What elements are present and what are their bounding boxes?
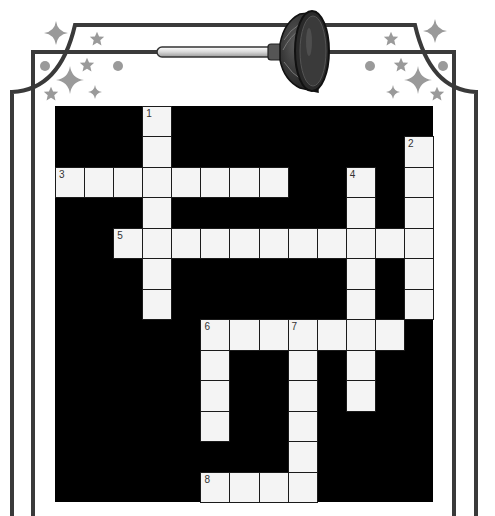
crossword-cell[interactable] <box>142 136 172 167</box>
crossword-cell[interactable] <box>375 228 405 259</box>
sparkle-icon <box>386 85 400 99</box>
dot-icon <box>438 61 448 71</box>
crossword-cell[interactable] <box>288 411 318 442</box>
crossword-cell[interactable] <box>142 289 172 320</box>
dot-icon <box>365 61 375 71</box>
crossword-cell[interactable] <box>259 228 289 259</box>
crossword-cell[interactable] <box>84 167 114 198</box>
crossword-cell[interactable] <box>346 197 376 228</box>
crossword-cell[interactable]: 2 <box>404 136 434 167</box>
star-icon <box>80 58 94 72</box>
crossword-cell[interactable] <box>200 411 230 442</box>
crossword-cell[interactable] <box>171 167 201 198</box>
star-icon <box>90 32 104 46</box>
sparkle-icon <box>56 66 84 94</box>
sparkle-icon <box>423 19 447 43</box>
crossword-cell[interactable] <box>346 350 376 381</box>
dot-icon <box>40 61 50 71</box>
crossword-cell[interactable] <box>229 472 259 503</box>
crossword-cell[interactable] <box>346 319 376 350</box>
clue-number: 7 <box>292 321 298 332</box>
crossword-cell[interactable] <box>142 167 172 198</box>
crossword-cell[interactable] <box>346 380 376 411</box>
crossword-cell[interactable] <box>142 258 172 289</box>
crossword-cell[interactable]: 8 <box>200 472 230 503</box>
crossword-cell[interactable] <box>200 350 230 381</box>
crossword-cell[interactable]: 3 <box>55 167 85 198</box>
dot-icon <box>113 61 123 71</box>
crossword-cell[interactable] <box>229 167 259 198</box>
crossword-cell[interactable] <box>259 472 289 503</box>
clue-number: 3 <box>59 169 65 180</box>
crossword-cell[interactable] <box>113 167 143 198</box>
crossword-cell[interactable] <box>142 197 172 228</box>
crossword-cell[interactable] <box>200 167 230 198</box>
crossword-cell[interactable] <box>346 258 376 289</box>
crossword-cell[interactable]: 1 <box>142 106 172 137</box>
clue-number: 2 <box>408 138 414 149</box>
crossword-cell[interactable] <box>259 167 289 198</box>
sparkle-icon <box>88 85 102 99</box>
star-icon <box>44 87 58 101</box>
crossword-cell[interactable] <box>288 350 318 381</box>
crossword-cell[interactable]: 4 <box>346 167 376 198</box>
crossword-cell[interactable] <box>317 228 347 259</box>
clue-number: 6 <box>204 321 210 332</box>
clue-number: 5 <box>117 230 123 241</box>
sparkle-icon <box>404 66 432 94</box>
crossword-cell[interactable]: 7 <box>288 319 318 350</box>
crossword-grid: 12345678 <box>55 106 433 502</box>
star-icon <box>384 32 398 46</box>
crossword-cell[interactable]: 6 <box>200 319 230 350</box>
crossword-cell[interactable] <box>142 228 172 259</box>
crossword-cell[interactable] <box>375 319 405 350</box>
crossword-cell[interactable] <box>229 228 259 259</box>
crossword-cell[interactable] <box>229 319 259 350</box>
crossword-cell[interactable] <box>404 289 434 320</box>
clue-number: 8 <box>204 474 210 485</box>
crossword-cell[interactable] <box>288 228 318 259</box>
crossword-cell[interactable] <box>346 228 376 259</box>
star-icon <box>394 58 408 72</box>
crossword-cell[interactable] <box>288 472 318 503</box>
right-ornaments <box>365 19 448 100</box>
crossword-cell[interactable] <box>288 380 318 411</box>
crossword-cell[interactable] <box>404 167 434 198</box>
left-ornaments <box>40 21 123 100</box>
crossword-cell[interactable] <box>171 228 201 259</box>
clue-number: 1 <box>146 108 152 119</box>
crossword-cell[interactable] <box>404 228 434 259</box>
crossword-cell[interactable] <box>404 197 434 228</box>
crossword-cell[interactable] <box>200 380 230 411</box>
star-icon <box>430 87 444 101</box>
crossword-cell[interactable] <box>317 319 347 350</box>
clue-number: 4 <box>350 169 356 180</box>
crossword-cell[interactable] <box>404 258 434 289</box>
crossword-cell[interactable] <box>346 289 376 320</box>
crossword-cell[interactable] <box>259 319 289 350</box>
crossword-cell[interactable]: 5 <box>113 228 143 259</box>
sparkle-icon <box>44 21 68 45</box>
crossword-cell[interactable] <box>200 228 230 259</box>
crossword-cell[interactable] <box>288 441 318 472</box>
